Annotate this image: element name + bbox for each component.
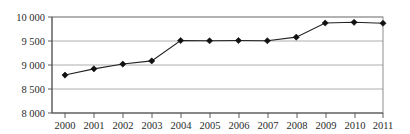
data-point-2006: [235, 37, 241, 43]
x-tick-label-2001: 2001: [84, 120, 105, 131]
chart-canvas: 10 000 9 500 9 000 8 500 8 000 2000 2001…: [0, 0, 410, 134]
x-tick-label-2011: 2011: [373, 120, 394, 131]
y-tick-label-9500: 9 500: [21, 36, 45, 47]
data-point-2002: [120, 61, 126, 67]
grid-lines: [52, 17, 383, 89]
y-tick-label-8000: 8 000: [21, 108, 45, 119]
x-tick-label-2009: 2009: [316, 120, 337, 131]
data-point-2011: [380, 20, 386, 26]
data-point-2005: [206, 38, 212, 44]
x-tick-label-2006: 2006: [229, 120, 250, 131]
x-tick-label-2003: 2003: [142, 120, 163, 131]
x-tick-label-2010: 2010: [345, 120, 366, 131]
y-axis-tick-labels: 10 000 9 500 9 000 8 500 8 000: [16, 12, 45, 119]
x-axis-ticks: [65, 113, 383, 118]
x-tick-label-2008: 2008: [287, 120, 308, 131]
data-point-2010: [351, 19, 357, 25]
data-point-2000: [62, 72, 68, 78]
x-tick-label-2002: 2002: [113, 120, 134, 131]
data-point-2008: [293, 34, 299, 40]
series-markers: [62, 19, 386, 78]
y-tick-label-9000: 9 000: [21, 60, 45, 71]
x-tick-label-2007: 2007: [258, 120, 279, 131]
line-chart: 10 000 9 500 9 000 8 500 8 000 2000 2001…: [0, 0, 410, 134]
y-tick-label-10000: 10 000: [16, 12, 45, 23]
x-axis-tick-labels: 2000 2001 2002 2003 2004 2005 2006 2007 …: [55, 120, 394, 131]
series-line: [65, 22, 383, 75]
x-tick-label-2000: 2000: [55, 120, 76, 131]
x-tick-label-2005: 2005: [200, 120, 221, 131]
data-point-2007: [264, 38, 270, 44]
y-axis-ticks: [48, 17, 52, 113]
x-tick-label-2004: 2004: [171, 120, 193, 131]
data-point-2009: [322, 20, 328, 26]
y-tick-label-8500: 8 500: [21, 84, 45, 95]
data-point-2001: [91, 66, 97, 72]
